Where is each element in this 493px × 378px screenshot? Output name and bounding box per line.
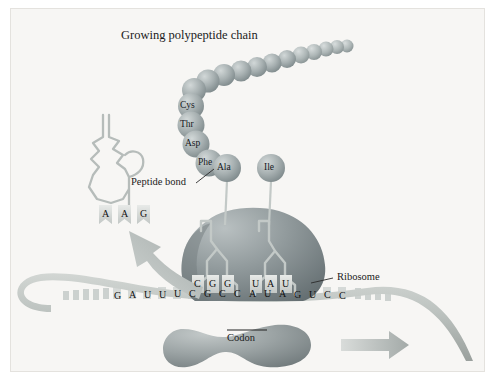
- mrna-base-4: U: [159, 289, 166, 300]
- mrna-base-13: G: [294, 289, 301, 300]
- mrna-base-10: A: [249, 288, 256, 299]
- mrna-base-6: C: [189, 288, 196, 299]
- polypeptide-chain: [182, 40, 354, 103]
- mrna-base-2: A: [129, 289, 136, 300]
- bead-label-asp: Asp: [185, 138, 200, 148]
- exit-anticodon-base-3: G: [140, 208, 147, 219]
- codon-label: Codon: [227, 332, 255, 343]
- mrna-base-5: U: [174, 288, 181, 299]
- mrna-base-9: C: [234, 288, 241, 299]
- ribosome-movement-arrow: [341, 331, 409, 359]
- mrna-base-16: C: [339, 290, 346, 301]
- exit-anticodon-base-1: A: [102, 208, 109, 219]
- mrna-base-7: G: [204, 288, 211, 299]
- figure-panel: Growing polypeptide chain Peptide bond R…: [10, 8, 485, 372]
- mrna-base-1: G: [114, 290, 121, 301]
- bead-label-cys: Cys: [180, 100, 195, 110]
- trna-exiting: [89, 115, 143, 215]
- bead-label-ile: Ile: [264, 162, 274, 172]
- mrna-base-ticks-left: [63, 288, 109, 300]
- peptide-bond-label: Peptide bond: [131, 176, 186, 187]
- mrna-base-3: U: [144, 289, 151, 300]
- exit-anticodon-base-2: A: [121, 208, 128, 219]
- mrna-base-11: U: [264, 288, 271, 299]
- mrna-base-8: C: [219, 288, 226, 299]
- mrna-base-14: U: [309, 289, 316, 300]
- polypeptide-chain-label: Growing polypeptide chain: [121, 28, 258, 43]
- figure-stage: Growing polypeptide chain Peptide bond R…: [0, 0, 493, 378]
- bead-label-thr: Thr: [180, 119, 194, 129]
- mrna-base-12: A: [279, 288, 286, 299]
- bead-label-phe: Phe: [198, 157, 212, 167]
- bead-label-ala: Ala: [217, 162, 231, 172]
- ribosome-label: Ribosome: [337, 271, 380, 282]
- mrna-base-15: C: [324, 289, 331, 300]
- translation-illustration: [11, 9, 484, 371]
